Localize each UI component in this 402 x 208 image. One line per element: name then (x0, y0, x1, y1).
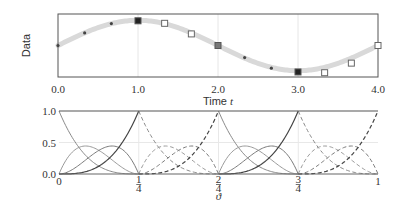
y-tick-label: 1.0 (42, 105, 56, 117)
top-plot: 0.01.02.03.04.0Time tData (20, 14, 385, 107)
bottom-plot: 0.00.51.001424341ϑ (42, 105, 381, 202)
x-tick-label: 4.0 (371, 83, 385, 95)
basis-curve (219, 146, 299, 174)
y-tick-label: 0.0 (42, 168, 56, 180)
x-tick-label: 0 (56, 175, 62, 187)
basis-curve (59, 146, 139, 174)
data-point-open-square (162, 20, 168, 26)
data-point-filled-square (295, 69, 301, 75)
basis-curve (139, 146, 219, 174)
x-tick-denominator: 4 (296, 182, 302, 194)
x-tick-label: 0.0 (51, 83, 65, 95)
data-point-open-square (188, 31, 194, 37)
x-tick-label: 3.0 (291, 83, 305, 95)
data-point-open-square (348, 60, 354, 66)
x-tick-label: 1.0 (131, 83, 145, 95)
figure: 0.01.02.03.04.0Time tData 0.00.51.001424… (0, 0, 402, 208)
x-axis-label: Time t (203, 95, 234, 107)
data-point-dot (270, 67, 273, 70)
basis-curve (298, 146, 378, 174)
y-tick-label: 0.5 (42, 137, 56, 149)
data-point-open-square (322, 70, 328, 76)
data-point-gray-square (215, 43, 221, 49)
x-tick-denominator: 4 (136, 182, 142, 194)
x-tick-label: 1 (375, 175, 381, 187)
data-point-filled-square (135, 18, 141, 24)
data-point-dot (243, 56, 246, 59)
data-point-dot (56, 44, 59, 47)
x-tick-label: 2.0 (211, 83, 225, 95)
data-point-dot (83, 31, 86, 34)
data-point-open-square (375, 43, 381, 49)
x-axis-label: ϑ (216, 190, 222, 202)
y-axis-label: Data (20, 33, 32, 57)
data-point-dot (110, 22, 113, 25)
